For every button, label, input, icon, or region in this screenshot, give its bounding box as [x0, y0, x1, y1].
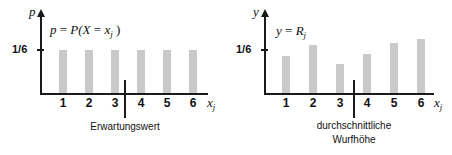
right-formula: y = Rj [276, 23, 306, 40]
left-xtick-3: 3 [108, 96, 122, 110]
right-bar-3 [336, 64, 344, 93]
right-y-tick-label: 1/6 [236, 43, 251, 55]
left-xtick-2: 2 [82, 96, 96, 110]
left-xtick-1: 1 [56, 96, 70, 110]
left-bar-1 [59, 50, 67, 93]
left-caption: Erwartungswert [82, 121, 168, 132]
left-y-tick-mark [37, 49, 44, 51]
right-x-axis-label-subscript: j [440, 102, 443, 112]
left-y-tick-label: 1/6 [12, 43, 27, 55]
left-xtick-4: 4 [134, 96, 148, 110]
right-x-axis [264, 93, 434, 95]
right-bar-2 [309, 45, 317, 93]
left-y-axis-label: p [29, 4, 36, 20]
left-x-axis-label: xj [207, 95, 215, 112]
right-bar-6 [417, 39, 425, 93]
left-bar-3 [111, 50, 119, 93]
right-xtick-1: 1 [279, 96, 293, 110]
right-formula-var: R [296, 23, 304, 38]
right-xtick-5: 5 [387, 96, 401, 110]
right-xtick-3: 3 [333, 96, 347, 110]
left-chart-panel: p p = P(X = xj ) 1/6 1 2 3 4 5 6 xj Erwa… [0, 0, 226, 155]
right-bar-5 [390, 43, 398, 93]
left-bar-4 [137, 50, 145, 93]
right-xtick-2: 2 [306, 96, 320, 110]
right-y-axis-arrow-icon [261, 9, 269, 17]
right-xtick-6: 6 [414, 96, 428, 110]
right-formula-subscript: j [304, 30, 307, 40]
left-formula-eq: = [57, 22, 71, 37]
right-average-height-line [353, 80, 355, 118]
right-chart-panel: y y = Rj 1/6 1 2 3 4 5 6 xj durchschnitt… [226, 0, 452, 155]
left-formula-eq2: = [91, 22, 105, 37]
left-formula: p = P(X = xj ) [50, 22, 120, 39]
left-y-axis-arrow-icon [37, 9, 45, 17]
right-caption-line-1: durchschnittliche [304, 120, 404, 131]
left-y-axis [40, 16, 42, 95]
left-bar-2 [85, 50, 93, 93]
right-y-tick-mark [261, 49, 268, 51]
left-xtick-6: 6 [186, 96, 200, 110]
right-y-axis-label: y [253, 4, 259, 20]
right-x-axis-label: xj [434, 95, 442, 112]
left-bar-5 [163, 50, 171, 93]
left-formula-fn: P(X [70, 22, 90, 37]
two-panel-bar-chart-figure: p p = P(X = xj ) 1/6 1 2 3 4 5 6 xj Erwa… [0, 0, 452, 155]
right-y-axis [264, 16, 266, 95]
right-bar-1 [282, 56, 290, 93]
left-x-axis-label-subscript: j [213, 102, 216, 112]
left-bar-6 [189, 50, 197, 93]
right-formula-eq: = [282, 23, 296, 38]
left-expected-value-line [124, 80, 126, 118]
right-bar-4 [363, 54, 371, 93]
right-caption-line-2: Wurfhöhe [304, 134, 404, 145]
right-xtick-4: 4 [360, 96, 374, 110]
left-xtick-5: 5 [160, 96, 174, 110]
left-formula-close: ) [113, 22, 121, 37]
